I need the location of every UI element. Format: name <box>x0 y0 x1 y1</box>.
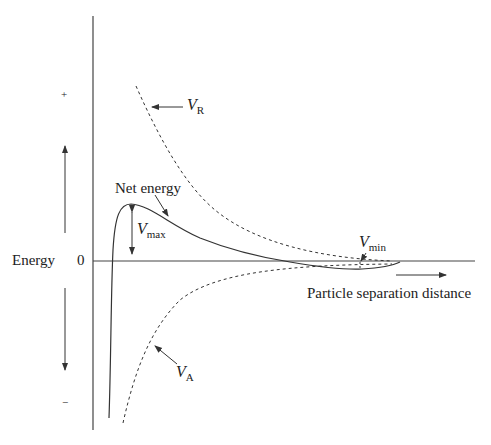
vr-label-main: V <box>187 96 197 113</box>
vmax-label-main: V <box>137 220 147 237</box>
va-label-main: V <box>176 363 186 380</box>
energy-diagram <box>0 0 491 445</box>
negative-sign-label: − <box>62 396 68 408</box>
vr-label-sub: R <box>197 104 204 116</box>
va-label: VA <box>176 363 194 381</box>
positive-sign-label: + <box>61 88 67 100</box>
net-energy-label: Net energy <box>115 180 181 197</box>
net-energy-pointer-arrow <box>155 195 168 216</box>
vr-curve <box>136 86 392 261</box>
vmax-label: Vmax <box>137 220 166 238</box>
vmax-label-sub: max <box>147 228 166 240</box>
vmin-pointer-arrow <box>361 253 366 261</box>
x-axis-label: Particle separation distance <box>307 285 471 302</box>
va-pointer-arrow <box>155 346 177 364</box>
vmin-label-sub: min <box>369 241 386 253</box>
energy-axis-label: Energy <box>12 252 55 269</box>
va-label-sub: A <box>186 371 194 383</box>
vmin-label: Vmin <box>359 233 386 251</box>
vr-label: VR <box>187 96 204 114</box>
zero-label: 0 <box>77 252 85 269</box>
vmin-label-main: V <box>359 233 369 250</box>
